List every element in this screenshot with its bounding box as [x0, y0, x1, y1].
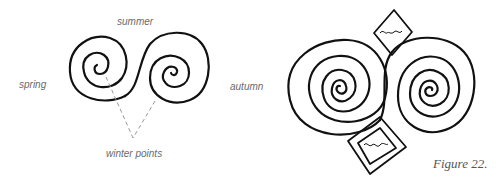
- figure-caption: Figure 22.: [433, 157, 487, 170]
- figure-canvas: [0, 0, 502, 185]
- label-summer: summer: [117, 17, 153, 27]
- label-spring: spring: [19, 80, 46, 90]
- top-diamond: [374, 10, 412, 55]
- double-spiral: [70, 33, 209, 103]
- left-large-spiral: [288, 40, 386, 135]
- wave-line-bottom: [364, 143, 388, 146]
- label-winter-points: winter points: [106, 149, 162, 159]
- wave-line-top: [380, 31, 402, 33]
- label-autumn: autumn: [230, 82, 263, 92]
- bottom-square: [348, 117, 406, 174]
